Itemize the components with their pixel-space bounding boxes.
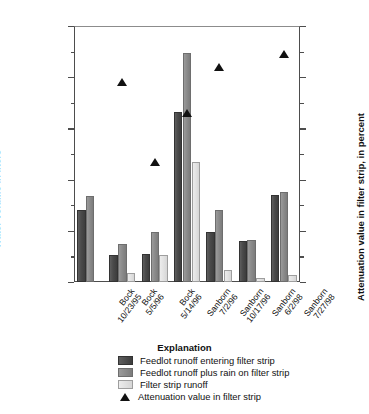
bar-series-1 (280, 192, 288, 282)
x-axis-label: Bock5/5/96 (138, 287, 167, 317)
y-tick-major-left (68, 282, 74, 283)
bar-series-1 (118, 244, 126, 282)
y-tick-major-right (300, 26, 306, 27)
y-tick-minor-right (300, 103, 304, 104)
attenuation-marker (214, 63, 224, 71)
x-axis-label: Sanborn10/17/96 (238, 287, 273, 325)
attenuation-marker (117, 78, 127, 86)
legend-item: Feedlot runoff entering filter strip (0, 355, 369, 366)
legend-label: Feedlot runoff plus rain on filter strip (140, 367, 289, 378)
triangle-up-icon (118, 392, 131, 401)
plot-area: 0100,000200,000300,000400,000500,000 020… (74, 26, 300, 282)
y-tick-major-right (300, 77, 306, 78)
bar-series-2 (224, 270, 232, 282)
bar-series-1 (215, 210, 223, 282)
legend-swatch (118, 368, 133, 377)
y-tick-major-right (300, 128, 306, 129)
bar-group (171, 26, 203, 282)
legend: Explanation Feedlot runoff entering filt… (0, 342, 369, 403)
legend-rows: Feedlot runoff entering filter stripFeed… (0, 355, 369, 402)
bar-series-2 (192, 162, 200, 282)
x-axis-label: Sanborn6/2/98 (270, 287, 305, 324)
attenuation-marker (279, 50, 289, 58)
attenuation-marker (182, 109, 192, 117)
bar-series-0 (206, 232, 214, 282)
y-axis-title-left: Water volume in liters (0, 150, 2, 248)
bar-series-1 (86, 196, 94, 282)
bar-series-1 (247, 240, 255, 282)
bar-series-0 (239, 241, 247, 282)
bar-group (106, 26, 138, 282)
legend-swatch (118, 380, 133, 389)
attenuation-marker (150, 158, 160, 166)
x-axis-label: Bock5/14/96 (172, 287, 204, 321)
bar-series-0 (109, 255, 117, 282)
y-tick-major-right (300, 231, 306, 232)
legend-item: Feedlot runoff plus rain on filter strip (0, 367, 369, 378)
y-tick-minor-right (300, 205, 304, 206)
legend-item: Filter strip runoff (0, 379, 369, 390)
bar-series-0 (174, 112, 182, 282)
bar-series-1 (183, 53, 191, 282)
y-tick-minor-right (300, 52, 304, 53)
bar-group (268, 26, 300, 282)
legend-swatch (118, 356, 133, 365)
y-axis-title-right: Attenuation value in filter strip, in pe… (355, 113, 366, 301)
bar-group (74, 26, 106, 282)
legend-title: Explanation (0, 342, 369, 353)
bar-series-2 (256, 278, 264, 282)
bar-group (235, 26, 267, 282)
legend-label: Attenuation value in filter strip (138, 391, 261, 402)
y-tick-minor-right (300, 256, 304, 257)
figure-canvas: Water volume in liters Attenuation value… (0, 0, 369, 414)
bar-series-0 (142, 254, 150, 282)
bar-series-2 (159, 255, 167, 282)
bar-series-0 (77, 210, 85, 282)
bar-series-0 (271, 195, 279, 282)
legend-item: Attenuation value in filter strip (0, 391, 369, 402)
x-axis-label: Sanborn7/27/98 (302, 287, 337, 324)
bar-series-2 (127, 273, 135, 282)
y-tick-minor-right (300, 154, 304, 155)
bar-series-1 (151, 232, 159, 282)
legend-label: Filter strip runoff (140, 379, 208, 390)
y-tick-major-right (300, 180, 306, 181)
x-axis-label: Sanborn7/2/96 (205, 287, 240, 324)
legend-label: Feedlot runoff entering filter strip (140, 355, 275, 366)
triangle-glyph (120, 393, 130, 401)
bar-group (139, 26, 171, 282)
y-tick-major-right (300, 282, 306, 283)
bar-series-2 (288, 275, 296, 282)
